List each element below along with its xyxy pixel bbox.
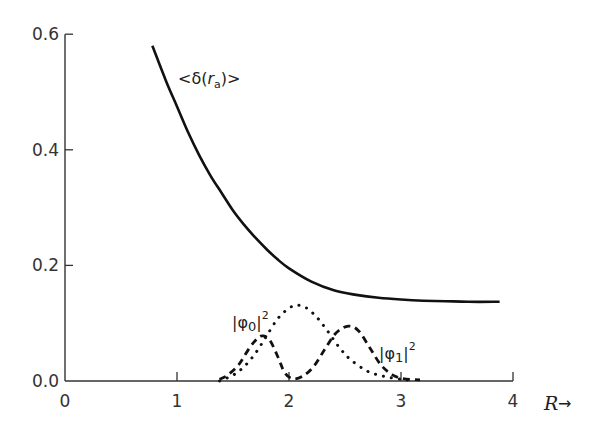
chart: 0.00.20.40.601234 <δ(ra)> |φ0|2 |φ1|2 R … [0, 0, 605, 430]
annotation-phi1: |φ1|2 [379, 340, 416, 365]
x-tick-label: 0 [60, 391, 71, 411]
series-group [152, 46, 499, 381]
x-tick-label: 3 [396, 391, 407, 411]
y-tick-label: 0.6 [32, 24, 59, 44]
x-tick-label: 1 [172, 391, 183, 411]
x-tick-label: 4 [508, 391, 519, 411]
annotation-delta: <δ(ra)> [178, 69, 240, 91]
y-tick-label: 0.0 [32, 371, 59, 391]
axes [65, 34, 513, 381]
x-tick-label: 2 [284, 391, 295, 411]
y-tick-label: 0.4 [32, 140, 59, 160]
y-tick-label: 0.2 [32, 255, 59, 275]
x-axis-label: R [543, 392, 558, 414]
annotation-phi0: |φ0|2 [232, 309, 269, 334]
x-axis-arrow-icon: → [558, 394, 571, 413]
